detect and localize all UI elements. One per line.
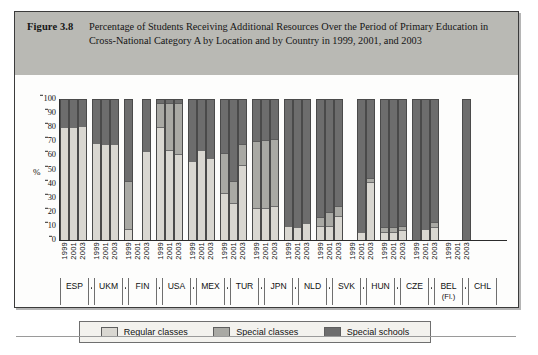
stacked-bar[interactable] [165,99,174,240]
bar-segment-reg [175,154,182,240]
y-tick-label: 100 [43,95,56,103]
country-name: SVK [338,278,355,305]
country-label-cell: CZE [400,278,429,305]
year-tick-label: 2003 [334,242,343,260]
stacked-bar[interactable] [284,99,293,240]
separator-dot-icon [329,287,331,289]
bar-segment-sch [230,99,237,181]
stacked-bar[interactable] [133,99,142,240]
stacked-bar[interactable] [69,99,78,240]
stacked-bar[interactable] [316,99,325,240]
year-tick-label: 2003 [462,242,471,260]
stacked-bar[interactable] [92,99,101,240]
y-tick-mark [45,208,48,209]
country-name: MEX [201,278,220,305]
bar-segment-sch [381,99,388,227]
stacked-bar[interactable] [197,99,206,240]
country-name-sub: (Fl.) [440,292,456,302]
year-tick-label: 2003 [238,242,247,260]
stacked-bar[interactable] [389,99,398,240]
stacked-bar[interactable] [270,99,279,240]
stacked-bar[interactable] [334,99,343,240]
year-tick-label: 2001 [133,242,142,260]
year-tick-label: 1999 [220,242,229,260]
bar-segment-spc [317,217,324,225]
bar-segment-reg [102,144,109,240]
stacked-bar[interactable] [156,99,165,240]
stacked-bar[interactable] [261,99,270,240]
stacked-bar[interactable] [174,99,183,240]
country-name: NLD [304,278,321,305]
bar-segment-reg [303,223,310,240]
bar-segment-reg [335,216,342,240]
stacked-bar[interactable] [78,99,87,240]
year-tick-label: 1999 [156,242,165,260]
y-tick-label: 40 [48,179,56,187]
bar-segment-sch [253,99,260,141]
stacked-bar[interactable] [462,99,471,240]
country-label-cell: FIN [128,278,157,305]
stacked-bar[interactable] [325,99,334,240]
separator-dot-icon [159,287,161,289]
x-axis-line [59,240,507,241]
stacked-bar[interactable] [430,99,439,240]
bar-group [316,99,343,240]
stacked-bar[interactable] [188,99,197,240]
year-tick-label: 1999 [412,242,421,260]
bar-segment-sch [102,99,109,144]
bar-segment-sch [61,99,68,127]
stacked-bar[interactable] [348,99,357,240]
year-tick-label: 1999 [252,242,261,260]
stacked-bar[interactable] [293,99,302,240]
y-tick-label: 80 [48,123,56,131]
stacked-bar[interactable] [124,99,133,240]
stacked-bar[interactable] [238,99,247,240]
stacked-bar[interactable] [366,99,375,240]
year-tick-label: 2003 [430,242,439,260]
stacked-bar[interactable] [444,99,453,240]
stacked-bar[interactable] [302,99,311,240]
bar-segment-reg [207,158,214,240]
bar-segment-spc [230,181,237,204]
bar-segment-reg [111,144,118,240]
stacked-bar[interactable] [60,99,69,240]
bar-segment-sch [431,99,438,222]
plot-area: % 0102030405060708090100 199920012003199… [15,75,518,307]
year-tick-label: 2001 [453,242,462,260]
year-tick-label: 2001 [69,242,78,260]
country-label-cell: NLD [298,278,327,305]
stacked-bar[interactable] [220,99,229,240]
stacked-bar[interactable] [110,99,119,240]
stacked-bar[interactable] [142,99,151,240]
bar-group [60,99,87,240]
stacked-bar[interactable] [453,99,462,240]
year-tick-label: 2003 [78,242,87,260]
year-tick-label: 2003 [142,242,151,260]
stacked-bar[interactable] [412,99,421,240]
separator-dot-icon [125,287,127,289]
stacked-bar[interactable] [357,99,366,240]
stacked-bar[interactable] [252,99,261,240]
bar-segment-reg [198,150,205,240]
year-tick-label: 2001 [357,242,366,260]
bar-segment-reg [230,203,237,240]
country-name: FIN [136,278,150,305]
country-labels-row: ESPUKMFINUSAMEXTURJPNNLDSVKHUNCZEBEL(Fl.… [60,278,503,308]
bar-segment-sch [390,99,397,227]
stacked-bar[interactable] [101,99,110,240]
stacked-bar[interactable] [206,99,215,240]
year-tick-label: 1999 [92,242,101,260]
bar-groups [60,99,503,240]
y-tick-mark [45,179,48,180]
year-tick-label: 2003 [398,242,407,260]
year-tick-label: 1999 [348,242,357,260]
bar-segment-reg [358,232,365,240]
year-tick-label: 1999 [380,242,389,260]
year-tick-label: 2001 [229,242,238,260]
stacked-bar[interactable] [398,99,407,240]
stacked-bar[interactable] [421,99,430,240]
stacked-bar[interactable] [380,99,389,240]
year-tick-label: 2003 [206,242,215,260]
stacked-bar[interactable] [229,99,238,240]
year-tick-label: 2003 [174,242,183,260]
